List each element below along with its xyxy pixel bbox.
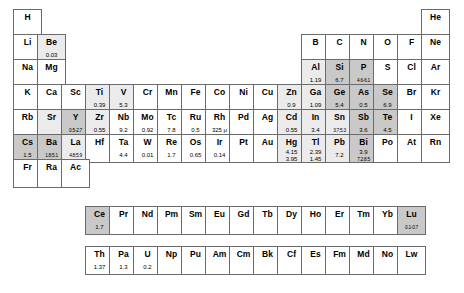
element-symbol: Mg — [38, 62, 65, 72]
element-cell-rn[interactable]: Rn — [421, 134, 450, 163]
element-symbol: Kr — [422, 87, 449, 97]
element-symbol: Ar — [422, 62, 449, 72]
element-cell-lu[interactable]: Lu0.1-0.7 — [397, 206, 426, 235]
element-symbol: Xe — [422, 112, 449, 122]
element-symbol: He — [422, 12, 449, 22]
element-symbol: Lu — [398, 209, 425, 219]
element-symbol: H — [14, 12, 41, 22]
periodic-table: HHeLiBe0.03BCNOFNeNaMgAl1.19Si6.7P4.6-6.… — [0, 0, 464, 293]
element-cell-lw[interactable]: Lw — [397, 246, 426, 275]
element-symbol: Lw — [398, 249, 425, 259]
element-value: 0.03 — [38, 52, 65, 59]
element-symbol: Ne — [422, 37, 449, 47]
element-cell-ac[interactable]: Ac — [61, 159, 90, 188]
element-value: 0.1-0.7 — [398, 224, 425, 231]
element-symbol: Be — [38, 37, 65, 47]
element-symbol: Rn — [422, 137, 449, 147]
element-symbol: Ac — [62, 162, 89, 172]
